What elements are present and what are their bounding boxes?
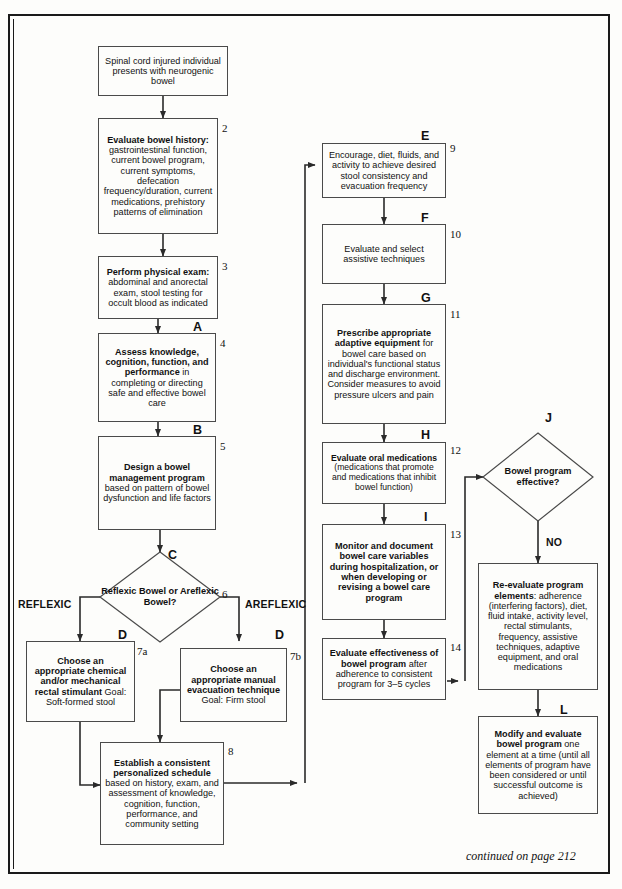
node-evaluate-assistive-techniques[interactable]: Evaluate and select assistive techniques: [322, 224, 446, 284]
node-bold-lead: Evaluate oral medications: [331, 453, 437, 463]
node-text: Design a bowel management program based …: [103, 462, 211, 503]
node-text: Encourage, diet, fluids, and activity to…: [327, 150, 441, 191]
node-bold-lead: Assess knowledge, cognition, function, a…: [105, 347, 208, 378]
step-number-12: 12: [450, 444, 461, 456]
node-text: Prescribe appropriate adaptive equipment…: [327, 328, 441, 400]
node-body: (medications that promote and medication…: [332, 462, 436, 491]
step-number-13: 13: [450, 528, 461, 540]
edge-C-areflexic-to-7b: [220, 597, 239, 641]
node-text: Evaluate bowel history: gastrointestinal…: [103, 135, 213, 217]
step-number-6: 6: [222, 588, 228, 600]
node-evaluate-bowel-history[interactable]: Evaluate bowel history: gastrointestinal…: [98, 118, 218, 234]
node-body: based on pattern of bowel dysfunction an…: [103, 483, 211, 503]
edge-riser-to-E: [305, 165, 315, 783]
letter-label-F: F: [421, 211, 429, 225]
node-text: Evaluate oral medications (medications t…: [327, 454, 441, 493]
node-evaluate-oral-medications[interactable]: Evaluate oral medications (medications t…: [322, 442, 446, 504]
branch-label-areflexic: AREFLEXIC: [245, 598, 306, 610]
node-perform-physical-exam[interactable]: Perform physical exam: abdominal and ano…: [98, 256, 218, 319]
node-text: Perform physical exam: abdominal and ano…: [103, 267, 213, 308]
letter-label-I: I: [424, 510, 427, 524]
node-modify-evaluate-program[interactable]: Modify and evaluate bowel program one el…: [478, 716, 598, 814]
node-spinal-cord-injured[interactable]: Spinal cord injured individual presents …: [98, 46, 228, 96]
step-number-14: 14: [450, 641, 461, 653]
node-bold-lead: Perform physical exam:: [107, 267, 210, 277]
branch-label-no: NO: [546, 536, 562, 548]
node-bold-lead: Design a bowel management program: [109, 462, 205, 482]
node-text: Re-evaluate program elements: adherence …: [483, 580, 593, 672]
node-text: Assess knowledge, cognition, function, a…: [103, 347, 211, 409]
branch-label-reflexic: REFLEXIC: [18, 598, 72, 610]
node-bold-lead: Evaluate bowel history:: [107, 135, 209, 145]
node-body: Goal: Firm stool: [201, 695, 265, 705]
node-prescribe-adaptive-equipment[interactable]: Prescribe appropriate adaptive equipment…: [322, 304, 446, 424]
node-choose-chemical-stimulant[interactable]: Choose an appropriate chemical and/or me…: [26, 641, 135, 722]
edge-7a-to-8: [80, 722, 100, 785]
letter-label-D-left: D: [118, 628, 127, 642]
node-design-bowel-program[interactable]: Design a bowel management program based …: [98, 436, 216, 530]
node-bold-lead: Choose an appropriate manual evacuation …: [187, 664, 280, 695]
node-text: Establish a consistent personalized sche…: [105, 758, 219, 830]
continued-note: continued on page 212: [466, 849, 576, 864]
node-body: gastrointestinal function, current bowel…: [104, 145, 213, 217]
letter-label-L: L: [560, 703, 568, 717]
step-number-10: 10: [450, 228, 461, 240]
decision-bowel-program-effective[interactable]: Bowel program effective?: [483, 433, 593, 521]
step-number-8: 8: [228, 745, 234, 757]
node-encourage-diet-fluids[interactable]: Encourage, diet, fluids, and activity to…: [322, 143, 446, 198]
letter-label-B: B: [193, 423, 202, 437]
letter-label-A: A: [193, 320, 202, 334]
flowchart-page: Spinal cord injured individual presents …: [0, 0, 622, 889]
node-text: Modify and evaluate bowel program one el…: [483, 729, 593, 801]
node-body: : adherence (interfering factors), diet,…: [488, 591, 588, 673]
node-bold-lead: Prescribe appropriate adaptive equipment: [335, 328, 431, 348]
decision-text: Bowel program effective?: [483, 433, 593, 521]
letter-label-G: G: [421, 291, 431, 305]
step-number-2: 2: [222, 122, 228, 134]
node-text: Monitor and document bowel care variable…: [327, 541, 441, 603]
node-text: Evaluate effectiveness of bowel program …: [327, 648, 441, 689]
letter-label-J: J: [545, 411, 552, 425]
letter-label-D-right: D: [275, 628, 284, 642]
node-choose-manual-evacuation[interactable]: Choose an appropriate manual evacuation …: [180, 648, 287, 722]
node-text: Evaluate and select assistive techniques: [327, 244, 441, 265]
node-evaluate-effectiveness[interactable]: Evaluate effectiveness of bowel program …: [322, 638, 446, 700]
step-number-7a: 7a: [137, 645, 147, 657]
node-text: Choose an appropriate manual evacuation …: [185, 664, 282, 705]
node-text: Spinal cord injured individual presents …: [103, 56, 223, 87]
node-text: Choose an appropriate chemical and/or me…: [31, 656, 130, 707]
node-body: abdominal and anorectal exam, stool test…: [108, 277, 208, 308]
step-number-3: 3: [222, 260, 228, 272]
step-number-7b: 7b: [290, 650, 301, 662]
letter-label-H: H: [421, 428, 430, 442]
node-bold-lead: Monitor and document bowel care variable…: [330, 541, 439, 602]
step-number-4: 4: [220, 337, 226, 349]
node-reevaluate-program-elements[interactable]: Re-evaluate program elements: adherence …: [478, 563, 598, 690]
step-number-5: 5: [220, 440, 226, 452]
node-monitor-document-bowel-care[interactable]: Monitor and document bowel care variable…: [322, 524, 446, 620]
node-establish-schedule[interactable]: Establish a consistent personalized sche…: [100, 742, 224, 845]
step-number-11: 11: [450, 308, 461, 320]
node-body: based on history, exam, and assessment o…: [105, 778, 219, 829]
edge-C-reflexic-to-7a: [80, 597, 100, 641]
edge-7b-to-8: [160, 690, 180, 742]
node-assess-knowledge[interactable]: Assess knowledge, cognition, function, a…: [98, 333, 216, 422]
node-bold-lead: Establish a consistent personalized sche…: [113, 758, 211, 778]
letter-label-E: E: [421, 129, 429, 143]
step-number-9: 9: [450, 142, 456, 154]
